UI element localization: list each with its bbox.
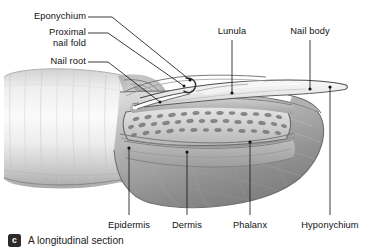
label-epidermis: Epidermis [99,220,159,232]
figure-badge: c [8,234,21,247]
label-hyponychium: Hyponychium [292,220,368,232]
label-eponychium: Eponychium [0,11,86,23]
label-nail-root: Nail root [0,56,86,68]
figure-caption-text: A longitudinal section [28,235,124,246]
label-dermis: Dermis [159,220,215,232]
label-proximal: Proximal [0,27,86,39]
label-lunula: Lunula [202,26,262,38]
label-phalanx: Phalanx [220,220,280,232]
figure-caption: c A longitudinal section [8,234,124,247]
label-nail-body: Nail body [276,26,344,38]
label-nail-fold: nail fold [0,38,86,50]
